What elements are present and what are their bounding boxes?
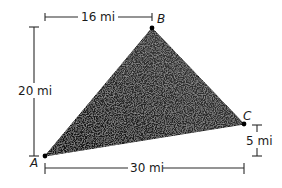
dimension-right: 5 mi bbox=[246, 125, 272, 156]
dimension-label-right: 5 mi bbox=[246, 134, 272, 148]
dimension-label-left: 20 mi bbox=[18, 84, 52, 98]
dimension-left: 20 mi bbox=[18, 27, 52, 156]
vertex-label-a: A bbox=[29, 156, 38, 170]
triangle-region bbox=[45, 28, 244, 156]
vertex-label-c: C bbox=[243, 109, 252, 123]
triangle-diagram: B A C 16 mi 20 mi 30 mi 5 mi bbox=[0, 0, 282, 188]
vertex-label-b: B bbox=[157, 12, 165, 26]
vertex-a-dot bbox=[43, 154, 48, 159]
vertex-b-dot bbox=[150, 26, 155, 31]
dimension-label-top: 16 mi bbox=[81, 10, 115, 24]
dimension-label-bottom: 30 mi bbox=[130, 161, 164, 175]
dimension-bottom: 30 mi bbox=[45, 161, 244, 175]
dimension-top: 16 mi bbox=[45, 10, 152, 24]
